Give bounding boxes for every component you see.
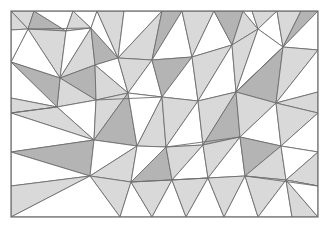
tessellation-canvas bbox=[0, 0, 330, 229]
triangle-group bbox=[11, 11, 318, 217]
tessellation-figure bbox=[0, 0, 330, 229]
